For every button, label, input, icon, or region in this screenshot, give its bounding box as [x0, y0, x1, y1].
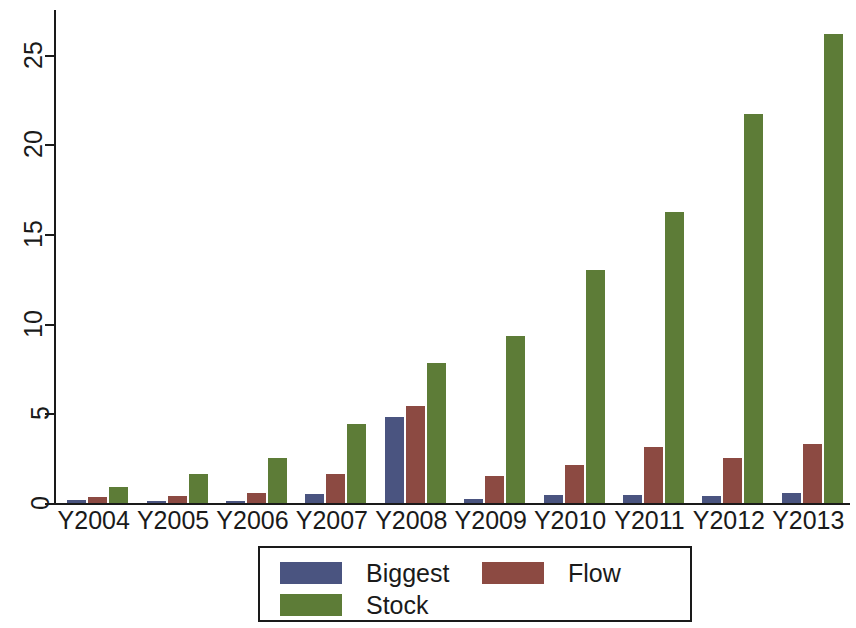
bar-biggest-y2010 — [544, 495, 563, 503]
y-tick-label: 20 — [22, 131, 47, 159]
bar-biggest-y2005 — [147, 501, 166, 503]
bar-group-y2004 — [67, 10, 128, 503]
x-label-y2007: Y2007 — [292, 505, 371, 535]
bar-biggest-y2011 — [623, 495, 642, 503]
bar-group-y2006 — [226, 10, 287, 503]
y-tick-label: 5 — [29, 406, 54, 420]
bar-flow-y2004 — [88, 497, 107, 503]
bar-flow-y2006 — [247, 493, 266, 503]
bar-biggest-y2012 — [702, 496, 721, 503]
x-label-y2004: Y2004 — [54, 505, 133, 535]
bar-flow-y2010 — [565, 465, 584, 503]
bar-biggest-y2008 — [385, 417, 404, 503]
bar-group-y2010 — [544, 10, 605, 503]
x-label-y2008: Y2008 — [372, 505, 451, 535]
bar-group-y2009 — [464, 10, 525, 503]
legend-swatch-flow — [482, 562, 544, 584]
bar-flow-y2012 — [723, 458, 742, 503]
bar-stock-y2009 — [506, 336, 525, 503]
bar-stock-y2008 — [427, 363, 446, 503]
bar-biggest-y2013 — [782, 493, 801, 503]
bar-group-y2007 — [305, 10, 366, 503]
bar-group-y2012 — [702, 10, 763, 503]
x-axis-tick-labels: Y2004Y2005Y2006Y2007Y2008Y2009Y2010Y2011… — [54, 505, 850, 539]
legend-label-stock: Stock — [366, 592, 429, 618]
bar-flow-y2008 — [406, 406, 425, 503]
bar-group-y2013 — [782, 10, 843, 503]
bar-stock-y2013 — [824, 34, 843, 503]
legend-swatch-biggest — [280, 562, 342, 584]
y-tick-label: 0 — [29, 496, 54, 510]
bar-flow-y2009 — [485, 476, 504, 503]
x-label-y2006: Y2006 — [213, 505, 292, 535]
x-label-y2009: Y2009 — [451, 505, 530, 535]
bar-stock-y2010 — [586, 270, 605, 503]
bar-group-y2005 — [147, 10, 208, 503]
bar-biggest-y2006 — [226, 501, 245, 503]
bar-groups — [56, 10, 850, 503]
bar-flow-y2005 — [168, 496, 187, 503]
legend-label-flow: Flow — [568, 560, 621, 586]
bar-biggest-y2007 — [305, 494, 324, 503]
bar-flow-y2007 — [326, 474, 345, 503]
x-label-y2011: Y2011 — [610, 505, 689, 535]
bar-biggest-y2009 — [464, 499, 483, 503]
bar-stock-y2005 — [189, 474, 208, 503]
bar-biggest-y2004 — [67, 500, 86, 503]
x-label-y2005: Y2005 — [133, 505, 212, 535]
chart-legend: Biggest Flow Stock — [258, 546, 692, 622]
bar-stock-y2012 — [744, 114, 763, 503]
x-label-y2012: Y2012 — [689, 505, 768, 535]
bar-stock-y2006 — [268, 458, 287, 503]
legend-label-biggest: Biggest — [366, 560, 449, 586]
bar-stock-y2011 — [665, 212, 684, 503]
y-tick-label: 15 — [22, 220, 47, 248]
plot-area: 0510152025 — [54, 10, 850, 505]
chart-page: 0510152025 Y2004Y2005Y2006Y2007Y2008Y200… — [0, 0, 856, 628]
y-tick-label: 10 — [22, 310, 47, 338]
bar-group-y2008 — [385, 10, 446, 503]
x-label-y2010: Y2010 — [530, 505, 609, 535]
bar-stock-y2004 — [109, 487, 128, 503]
x-label-y2013: Y2013 — [769, 505, 848, 535]
y-tick-label: 25 — [22, 41, 47, 69]
legend-swatch-stock — [280, 594, 342, 616]
bar-flow-y2011 — [644, 447, 663, 503]
bar-flow-y2013 — [803, 444, 822, 503]
bar-group-y2011 — [623, 10, 684, 503]
bar-stock-y2007 — [347, 424, 366, 503]
